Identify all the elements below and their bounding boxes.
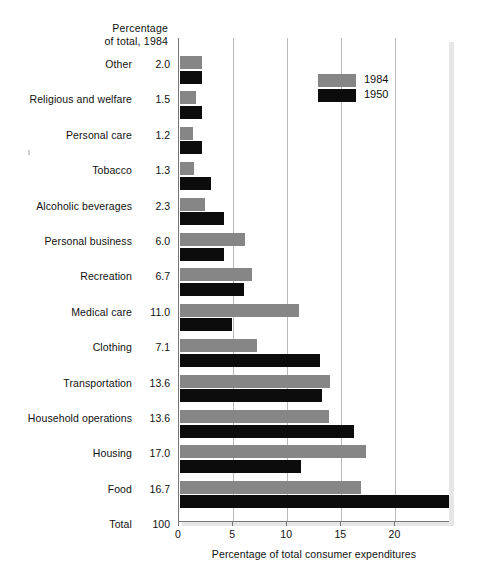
legend-entry-1984[interactable]: 1984	[318, 74, 414, 88]
bar-1984-recreation	[180, 268, 252, 281]
legend-swatch-icon-1950	[318, 89, 356, 102]
bar-1984-transportation	[180, 375, 330, 388]
bar-1950-personal-business	[180, 248, 224, 261]
pct-value-alcoholic-beverages: 2.3	[136, 200, 170, 212]
bar-1950-recreation	[180, 283, 244, 296]
bar-1984-tobacco	[180, 162, 194, 175]
bar-1984-religious-and-welfare	[180, 91, 196, 104]
category-label-clothing: Clothing	[20, 341, 132, 353]
bar-1984-other	[180, 56, 202, 69]
tick-10	[286, 521, 287, 526]
column-caption: Percentage of total, 1984	[60, 22, 168, 48]
bar-1950-personal-care	[180, 141, 202, 154]
bar-1984-food	[180, 481, 361, 494]
bar-1950-transportation	[180, 389, 322, 402]
pct-value-household-operations: 13.6	[136, 412, 170, 424]
pct-value-personal-care: 1.2	[136, 129, 170, 141]
bar-1984-medical-care	[180, 304, 299, 317]
tick-5	[232, 521, 233, 526]
legend-label-1984: 1984	[364, 73, 388, 85]
category-label-alcoholic-beverages: Alcoholic beverages	[20, 200, 132, 212]
tick-15	[340, 521, 341, 526]
pct-value-recreation: 6.7	[136, 270, 170, 282]
category-label-medical-care: Medical care	[20, 306, 132, 318]
pct-value-medical-care: 11.0	[136, 306, 170, 318]
bar-1984-clothing	[180, 339, 257, 352]
tick-label-10: 10	[271, 528, 301, 540]
bar-1950-housing	[180, 460, 301, 473]
tick-label-5: 5	[217, 528, 247, 540]
bar-1984-alcoholic-beverages	[180, 198, 205, 211]
bar-1950-food	[180, 495, 449, 508]
pct-value-food: 16.7	[136, 483, 170, 495]
bar-1950-household-operations	[180, 425, 354, 438]
pct-value-other: 2.0	[136, 58, 170, 70]
bar-1950-clothing	[180, 354, 320, 367]
pct-value-transportation: 13.6	[136, 377, 170, 389]
bar-1950-other	[180, 71, 202, 84]
category-label-personal-business: Personal business	[20, 235, 132, 247]
bar-chart-figure: Percentage of total, 1984 05101520 Perce…	[0, 0, 480, 581]
category-label-recreation: Recreation	[20, 270, 132, 282]
category-label-housing: Housing	[20, 447, 132, 459]
category-label-total: Total	[20, 518, 132, 530]
category-label-personal-care: Personal care	[20, 129, 132, 141]
bar-1950-alcoholic-beverages	[180, 212, 224, 225]
category-label-food: Food	[20, 483, 132, 495]
pct-value-clothing: 7.1	[136, 341, 170, 353]
category-label-religious-and-welfare: Religious and welfare	[20, 93, 132, 105]
bar-1950-religious-and-welfare	[180, 106, 202, 119]
bar-1984-household-operations	[180, 410, 329, 423]
pct-value-personal-business: 6.0	[136, 235, 170, 247]
legend: 1984 1950	[318, 74, 414, 104]
legend-entry-1950[interactable]: 1950	[318, 89, 414, 103]
pct-value-religious-and-welfare: 1.5	[136, 93, 170, 105]
pct-value-housing: 17.0	[136, 447, 170, 459]
bar-1984-personal-business	[180, 233, 245, 246]
tick-label-20: 20	[379, 528, 409, 540]
plot-area	[178, 38, 449, 522]
category-label-other: Other	[20, 58, 132, 70]
pct-value-total: 100	[136, 518, 170, 530]
scan-artifact	[28, 150, 30, 155]
legend-swatch-icon-1984	[318, 74, 356, 87]
category-label-household-operations: Household operations	[20, 412, 132, 424]
category-label-tobacco: Tobacco	[20, 164, 132, 176]
bar-1950-medical-care	[180, 318, 232, 331]
bar-1984-personal-care	[180, 127, 193, 140]
tick-20	[394, 521, 395, 526]
legend-label-1950: 1950	[364, 88, 388, 100]
category-label-transportation: Transportation	[20, 377, 132, 389]
column-caption-line2: of total, 1984	[60, 35, 168, 48]
tick-label-15: 15	[325, 528, 355, 540]
x-axis-line	[178, 521, 449, 522]
x-axis-title: Percentage of total consumer expenditure…	[178, 548, 450, 560]
gridline-20	[395, 38, 396, 522]
bar-1984-housing	[180, 445, 366, 458]
tick-0	[178, 521, 179, 526]
column-caption-line1: Percentage	[60, 22, 168, 35]
pct-value-tobacco: 1.3	[136, 164, 170, 176]
bar-1950-tobacco	[180, 177, 211, 190]
